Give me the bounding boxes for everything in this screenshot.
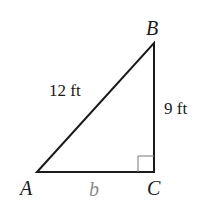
triangle-diagram: A B C 12 ft 9 ft b	[0, 0, 208, 206]
vertex-label-b: B	[146, 17, 158, 39]
triangle-abc	[37, 43, 154, 172]
leg-bc-label: 9 ft	[164, 99, 187, 118]
vertex-label-a: A	[18, 177, 33, 199]
vertex-label-c: C	[147, 177, 161, 199]
hypotenuse-label: 12 ft	[49, 81, 81, 100]
right-angle-marker	[138, 156, 154, 172]
leg-ac-label: b	[89, 178, 99, 200]
